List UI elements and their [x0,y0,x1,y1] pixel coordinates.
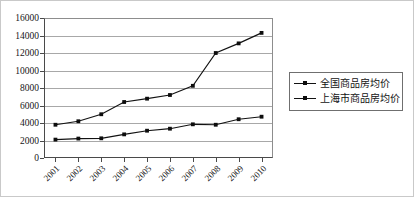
data-point-marker [191,84,195,88]
data-point-marker [122,100,126,104]
data-point-marker [191,122,195,126]
legend-marker-shanghai-icon [294,94,316,103]
data-point-marker [168,127,172,131]
legend-item-shanghai[interactable]: 上海市商品房均价 [294,91,398,106]
data-point-marker [260,115,264,119]
legend-label-shanghai: 上海市商品房均价 [320,93,400,104]
data-point-marker [122,132,126,136]
series-shanghai [54,31,264,127]
data-point-marker [237,117,241,121]
data-point-marker [214,123,218,127]
data-point-marker [214,51,218,55]
data-point-marker [99,136,103,140]
data-point-marker [76,137,80,141]
legend-marker-national-icon [294,79,316,88]
data-point-marker [260,31,264,35]
legend: 全国商品房均价 上海市商品房均价 [289,72,403,111]
series-line [55,117,261,140]
data-point-marker [237,41,241,45]
data-point-marker [168,93,172,97]
legend-item-national[interactable]: 全国商品房均价 [294,76,398,91]
chart-screenshot: 0200040006000800010000120001400016000 20… [0,0,414,197]
data-point-marker [76,119,80,123]
legend-label-national: 全国商品房均价 [320,78,390,89]
data-point-marker [54,123,58,127]
data-point-marker [54,138,58,142]
data-point-marker [145,129,149,133]
series-line [55,33,261,125]
data-point-marker [99,112,103,116]
data-point-marker [145,97,149,101]
